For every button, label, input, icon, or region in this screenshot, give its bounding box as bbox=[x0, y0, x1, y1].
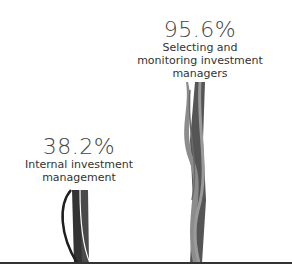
bars-graphic bbox=[0, 0, 292, 276]
bar-selecting-monitoring bbox=[184, 82, 206, 263]
bar-internal-investment bbox=[63, 190, 90, 263]
x-axis-baseline bbox=[0, 262, 292, 264]
